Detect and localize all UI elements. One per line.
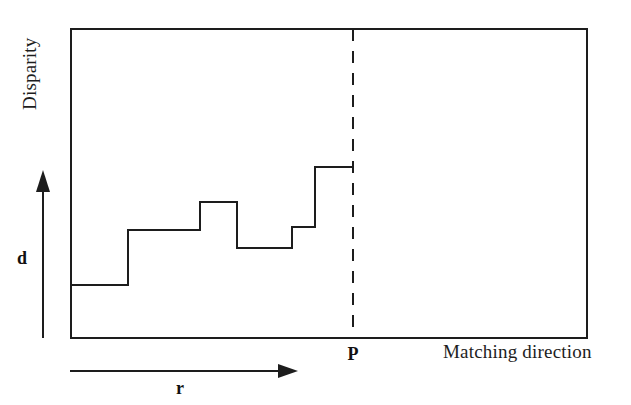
disparity-arrow-label: d <box>17 248 27 268</box>
disparity-arrow-head-icon <box>36 170 50 192</box>
range-arrow-head-icon <box>278 364 298 378</box>
plot-frame <box>71 29 587 338</box>
x-axis-label: Matching direction <box>443 341 592 362</box>
range-arrow-label: r <box>176 378 184 398</box>
disparity-step-chart: Disparity Matching direction d r P <box>0 0 631 405</box>
point-p-label: P <box>348 344 359 364</box>
y-axis-label: Disparity <box>19 37 40 110</box>
figure-container: Disparity Matching direction d r P <box>0 0 631 405</box>
